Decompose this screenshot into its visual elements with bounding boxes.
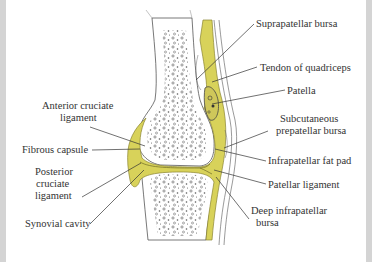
label-anterior-cruciate-ligament-line1: Anterior cruciate <box>42 100 113 112</box>
label-fibrous-capsule: Fibrous capsule <box>22 144 88 156</box>
label-synovial-cavity: Synovial cavity <box>25 218 91 230</box>
label-infrapatellar-fat-pad: Infrapatellar fat pad <box>268 155 351 167</box>
label-suprapatellar-bursa: Suprapatellar bursa <box>256 18 337 30</box>
label-subcutaneous-prepatellar-bursa-line1: Subcutaneous <box>280 113 338 125</box>
label-deep-infrapatellar-bursa-line2: bursa <box>256 217 279 229</box>
label-tendon-of-quadriceps: Tendon of quadriceps <box>260 62 351 74</box>
label-posterior-cruciate-ligament-line1: Posterior <box>35 166 73 178</box>
label-anterior-cruciate-ligament-line2: ligament <box>60 112 97 124</box>
label-subcutaneous-prepatellar-bursa-line2: prepatellar bursa <box>276 125 346 137</box>
label-posterior-cruciate-ligament-line2: cruciate <box>36 178 69 190</box>
label-deep-infrapatellar-bursa-line1: Deep infrapatellar <box>251 205 327 217</box>
label-posterior-cruciate-ligament-line3: ligament <box>35 190 72 202</box>
label-patella: Patella <box>287 85 316 97</box>
tibia <box>142 169 216 240</box>
label-patellar-ligament: Patellar ligament <box>268 179 339 191</box>
